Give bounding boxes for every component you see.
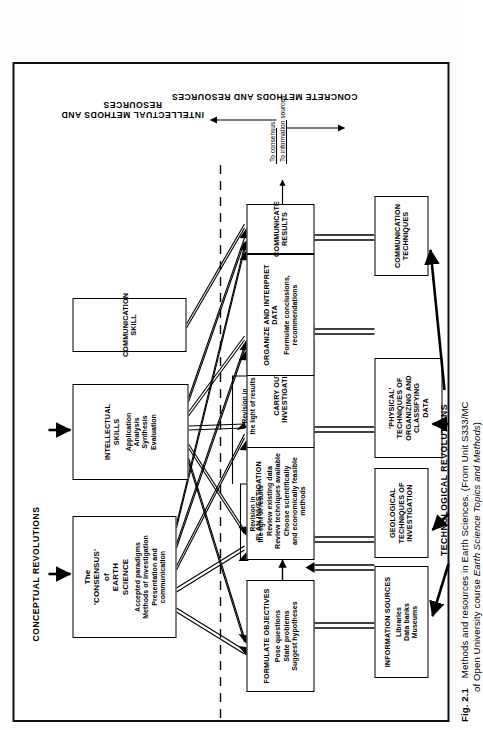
figure-caption: Fig. 2.1 Methods and resources in Earth … xyxy=(458,22,483,722)
figure-frame: CONCEPTUAL REVOLUTIONS The 'CONSENSUS' o… xyxy=(12,62,449,722)
figure-caption-line2a: of Open University course xyxy=(470,576,481,692)
figure-caption-course-title: Earth Science Topics and Methods xyxy=(470,425,481,576)
technological-revolution-arrows xyxy=(14,60,451,720)
figure-caption-line2b: ) xyxy=(470,422,481,425)
figure-caption-line1: Methods and resources in Earth Sciences.… xyxy=(458,401,470,678)
figure-number: Fig. 2.1 xyxy=(458,688,470,722)
